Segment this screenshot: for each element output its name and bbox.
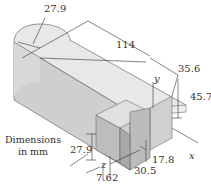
slot-wall: [120, 128, 130, 170]
dim-length: 114: [116, 40, 135, 50]
axis-y-label: y: [154, 74, 160, 84]
units-note-line2: in mm: [0, 146, 66, 158]
units-note-line1: Dimensions: [0, 134, 66, 146]
block-side: [130, 108, 150, 170]
dim-offset: 7.62: [96, 173, 118, 183]
dim-wall: 17.8: [152, 155, 174, 165]
dim-block-height: 45.7: [190, 92, 211, 102]
axis-x-label: x: [189, 151, 195, 161]
dim-radius: 27.9: [44, 4, 66, 14]
units-note: Dimensions in mm: [0, 134, 66, 158]
dim-block-width: 35.6: [178, 64, 200, 74]
dim-slot-width: 30.5: [134, 166, 156, 176]
dim-slot-height: 27.9: [70, 145, 92, 155]
axis-z-label: z: [101, 160, 106, 170]
